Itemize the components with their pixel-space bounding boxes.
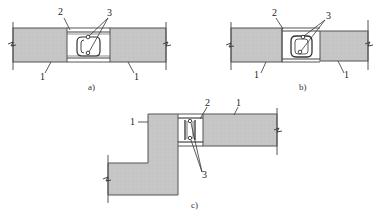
- panel-a: [8, 18, 171, 73]
- diagram-canvas: [0, 0, 382, 219]
- label-joint-rebar-b: 2: [272, 8, 277, 18]
- caption-a: a): [88, 83, 95, 92]
- right-slab: [203, 114, 277, 146]
- label-joint-rebar-c: 2: [205, 98, 210, 108]
- panel-b: [226, 18, 373, 73]
- label-right-slab-c: 1: [236, 98, 241, 108]
- label-joint-rebar-a: 2: [58, 7, 63, 17]
- label-left-slab-a: 1: [40, 72, 45, 82]
- caption-b: b): [299, 83, 307, 92]
- label-right-slab-b: 1: [344, 70, 349, 80]
- left-slab: [231, 28, 282, 62]
- label-right-slab-a: 1: [134, 72, 139, 82]
- caption-c: c): [191, 201, 198, 210]
- label-left-slab-b: 1: [254, 70, 259, 80]
- label-longitudinal-bars-b: 3: [326, 11, 331, 21]
- label-left-slab-c: 1: [130, 117, 135, 127]
- label-longitudinal-bars-a: 3: [107, 8, 112, 18]
- label-longitudinal-bars-c: 3: [202, 170, 207, 180]
- left-slab: [13, 28, 67, 62]
- l-shaped-slab: [108, 114, 178, 195]
- right-slab: [110, 28, 166, 62]
- right-slab: [320, 31, 368, 61]
- precast-slab-joint-diagram: 2 3 1 1 a) 2 3 1 1 b) 1 2 1 3 c): [0, 0, 382, 219]
